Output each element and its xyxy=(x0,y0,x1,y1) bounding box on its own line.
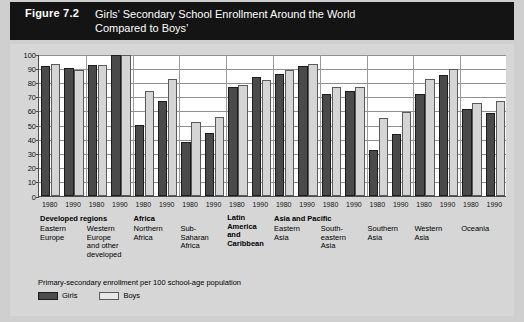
group-separator xyxy=(133,55,134,196)
figure-number: Figure 7.2 xyxy=(25,7,79,19)
bar-girls-northern-africa-1990 xyxy=(158,101,168,196)
bar-girls-southern-asia-1980 xyxy=(369,150,379,196)
y-axis-tickmark-40 xyxy=(36,140,39,141)
bar-girls-western-europe-and-other-developed-1980 xyxy=(88,65,98,196)
y-axis-tick-30: 30 xyxy=(14,154,36,155)
y-axis-tickmark-100 xyxy=(36,55,39,56)
bar-boys-southern-asia-1990 xyxy=(402,112,412,196)
year-label-1990: 1990 xyxy=(342,201,365,208)
bar-boys-south-eastern-asia-1990 xyxy=(355,87,365,196)
legend-item-boys: Boys xyxy=(99,291,156,300)
y-axis-tickmark-50 xyxy=(36,126,39,127)
y-axis-tickmark-0 xyxy=(36,197,39,198)
year-label-1990: 1990 xyxy=(483,201,506,208)
bar-boys-eastern-europe-1990 xyxy=(74,70,84,196)
y-axis-tickmark-10 xyxy=(36,182,39,183)
bar-boys-sub-saharan-africa-1980 xyxy=(191,122,201,196)
bar-girls-latin-america-and-caribbean-1990 xyxy=(252,77,262,196)
figure-page: Figure 7.2 Girls’ Secondary School Enrol… xyxy=(0,0,524,322)
bar-girls-eastern-asia-1990 xyxy=(298,66,308,196)
bar-boys-northern-africa-1990 xyxy=(168,79,178,196)
bar-boys-western-europe-and-other-developed-1980 xyxy=(98,65,108,196)
region-label-latin-america-and-caribbean: LatinAmericaandCaribbean xyxy=(227,214,273,248)
y-axis-tick-40: 40 xyxy=(14,140,36,141)
region-label-eastern-europe: EasternEurope xyxy=(40,225,86,242)
bar-girls-western-asia-1980 xyxy=(415,94,425,196)
region-label-northern-africa: NorthernAfrica xyxy=(134,225,180,242)
group-separator xyxy=(367,55,368,196)
y-axis-tick-80: 80 xyxy=(14,83,36,84)
y-axis-tick-50: 50 xyxy=(14,126,36,127)
year-label-1980: 1980 xyxy=(319,201,342,208)
bar-girls-oceania-1980 xyxy=(462,109,472,196)
year-label-1980: 1980 xyxy=(459,201,482,208)
bar-boys-eastern-asia-1990 xyxy=(308,64,318,196)
figure-title: Girls’ Secondary School Enrollment Aroun… xyxy=(95,7,495,35)
region-label-western-europe-and-other-developed: WesternEuropeand otherdeveloped xyxy=(87,225,133,259)
figure-header: Figure 7.2 Girls’ Secondary School Enrol… xyxy=(10,2,514,40)
y-axis-tick-0: 0 xyxy=(14,197,36,198)
y-axis-tick-90: 90 xyxy=(14,69,36,70)
bar-girls-south-eastern-asia-1990 xyxy=(345,91,355,196)
bar-girls-western-europe-and-other-developed-1990 xyxy=(111,55,121,196)
figure-title-line-2: Compared to Boys’ xyxy=(95,21,495,35)
year-label-1990: 1990 xyxy=(202,201,225,208)
year-label-1980: 1980 xyxy=(412,201,435,208)
region-group-header: Developed regions xyxy=(40,214,107,223)
bar-girls-eastern-europe-1990 xyxy=(64,68,74,197)
y-axis-tickmark-70 xyxy=(36,97,39,98)
year-label-1990: 1990 xyxy=(249,201,272,208)
chart-legend: Primary-secondary enrollment per 100 sch… xyxy=(38,278,241,300)
legend-label-girls: Girls xyxy=(62,291,77,300)
year-label-1980: 1980 xyxy=(132,201,155,208)
y-axis-tickmark-90 xyxy=(36,69,39,70)
legend-label-boys: Boys xyxy=(123,291,140,300)
legend-swatch-girls xyxy=(38,292,58,300)
group-separator xyxy=(460,55,461,196)
group-separator xyxy=(226,55,227,196)
region-label-southern-asia: SouthernAsia xyxy=(368,225,414,242)
bar-boys-western-europe-and-other-developed-1990 xyxy=(121,55,131,196)
y-axis-tick-60: 60 xyxy=(14,111,36,112)
x-axis-region-labels: Developed regionsAfricaAsia and PacificE… xyxy=(38,214,506,274)
y-axis-tick-100: 100 xyxy=(14,55,36,56)
bar-boys-eastern-europe-1980 xyxy=(51,64,61,196)
region-label-sub-saharan-africa: Sub-SaharanAfrica xyxy=(180,225,226,251)
bar-boys-western-asia-1990 xyxy=(449,69,459,196)
bar-girls-sub-saharan-africa-1980 xyxy=(181,142,191,196)
y-axis-tick-70: 70 xyxy=(14,97,36,98)
group-separator xyxy=(413,55,414,196)
bar-boys-northern-africa-1980 xyxy=(145,91,155,196)
year-label-1980: 1980 xyxy=(225,201,248,208)
bar-girls-western-asia-1990 xyxy=(439,75,449,196)
bar-boys-latin-america-and-caribbean-1980 xyxy=(238,85,248,196)
region-group-header: Africa xyxy=(134,214,155,223)
plot-area-wrapper: 0102030405060708090100 xyxy=(38,55,506,197)
bar-girls-southern-asia-1990 xyxy=(392,134,402,196)
y-axis-tickmark-60 xyxy=(36,111,39,112)
group-separator xyxy=(320,55,321,196)
year-label-1990: 1990 xyxy=(295,201,318,208)
bar-boys-western-asia-1980 xyxy=(425,79,435,196)
bar-boys-sub-saharan-africa-1990 xyxy=(215,117,225,196)
year-label-1980: 1980 xyxy=(38,201,61,208)
bar-girls-eastern-asia-1980 xyxy=(275,74,285,196)
legend-caption: Primary-secondary enrollment per 100 sch… xyxy=(38,278,241,287)
year-label-1980: 1980 xyxy=(272,201,295,208)
bar-girls-northern-africa-1980 xyxy=(135,125,145,196)
region-label-oceania: Oceania xyxy=(461,225,507,234)
year-label-1990: 1990 xyxy=(155,201,178,208)
x-axis-year-labels: 1980199019801990198019901980199019801990… xyxy=(38,201,506,211)
figure-title-line-1: Girls’ Secondary School Enrollment Aroun… xyxy=(95,7,495,21)
year-label-1980: 1980 xyxy=(178,201,201,208)
year-label-1990: 1990 xyxy=(61,201,84,208)
legend-swatch-boys xyxy=(99,292,119,300)
region-label-eastern-asia: EasternAsia xyxy=(274,225,320,242)
y-axis-tickmark-30 xyxy=(36,154,39,155)
year-label-1990: 1990 xyxy=(389,201,412,208)
legend-item-girls: Girls xyxy=(38,291,93,300)
bar-boys-oceania-1990 xyxy=(496,101,506,196)
bar-girls-sub-saharan-africa-1990 xyxy=(205,133,215,196)
y-axis-tick-20: 20 xyxy=(14,168,36,169)
bar-girls-eastern-europe-1980 xyxy=(41,66,51,196)
